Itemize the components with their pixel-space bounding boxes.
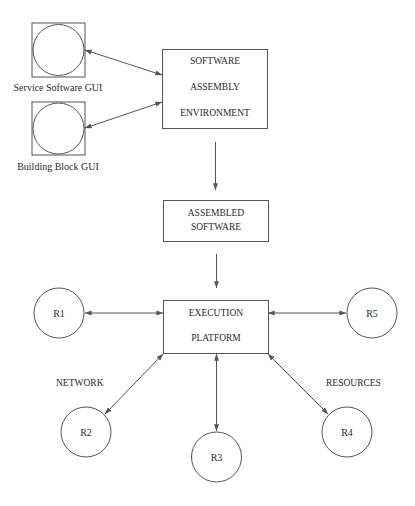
service-software-gui-node: Service Software GUI: [14, 23, 103, 93]
resource-node-r3: R3: [192, 432, 242, 482]
edge-building-block-gui-to-assembly: [85, 102, 162, 128]
architecture-diagram: Service Software GUI Building Block GUI …: [0, 0, 415, 506]
execution-platform-box: EXECUTION PLATFORM: [164, 301, 269, 354]
resources-annotation: RESOURCES: [326, 378, 381, 388]
box-line-1: EXECUTION: [189, 308, 243, 318]
box-line-2: ASSEMBLY: [190, 82, 240, 92]
edge-platform-to-r4: [268, 354, 328, 414]
gui-circle-icon: [33, 25, 84, 76]
resource-node-r2: R2: [61, 407, 111, 457]
edge-platform-to-r2: [105, 354, 163, 414]
resource-label: R1: [53, 308, 65, 319]
box-line-2: PLATFORM: [191, 333, 241, 343]
box-line-1: SOFTWARE: [190, 56, 240, 66]
box-line-2: SOFTWARE: [191, 222, 241, 232]
resource-label: R2: [80, 427, 92, 438]
resource-label: R4: [341, 427, 353, 438]
network-annotation: NETWORK: [56, 378, 104, 388]
box-line-1: ASSEMBLED: [188, 208, 245, 218]
edge-service-gui-to-assembly: [85, 50, 162, 75]
box-line-3: ENVIRONMENT: [180, 108, 250, 118]
service-software-gui-label: Service Software GUI: [14, 82, 103, 93]
software-assembly-environment-box: SOFTWARE ASSEMBLY ENVIRONMENT: [163, 50, 268, 129]
assembled-software-box: ASSEMBLED SOFTWARE: [164, 201, 269, 242]
resource-label: R5: [366, 308, 378, 319]
resource-node-r1: R1: [34, 288, 84, 338]
gui-circle-icon: [33, 103, 84, 154]
box-frame: [164, 201, 269, 242]
resource-label: R3: [211, 452, 223, 463]
building-block-gui-node: Building Block GUI: [17, 102, 99, 172]
resource-node-r4: R4: [322, 407, 372, 457]
building-block-gui-label: Building Block GUI: [17, 161, 99, 172]
resource-node-r5: R5: [347, 288, 397, 338]
